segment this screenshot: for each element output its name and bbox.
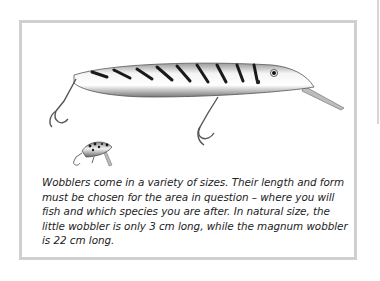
figure-box: Wobblers come in a variety of sizes. The… [19,20,357,260]
wobbler-illustration [22,23,360,183]
little-wobbler-icon [74,142,112,166]
figure-caption: Wobblers come in a variety of sizes. The… [42,175,352,248]
page-divider-line [377,0,379,124]
magnum-wobbler-icon [50,63,344,145]
